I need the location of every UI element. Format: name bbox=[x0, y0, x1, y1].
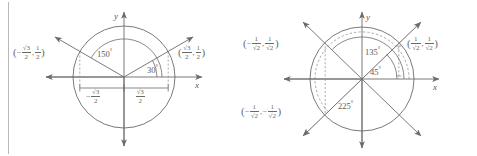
fraction-root3-over-2: √3 2 bbox=[136, 88, 145, 105]
fraction-numerator: 1 bbox=[425, 35, 434, 44]
right-panel-point-label-135: (− 1 √2 , 1 √2 ) bbox=[243, 35, 279, 52]
fraction-root3-over-2: √3 2 bbox=[91, 88, 100, 105]
right-panel-point-label-45: ( 1 √2 , 1 √2 ) bbox=[407, 35, 438, 52]
fraction-1-over-root2: 1 √2 bbox=[411, 35, 420, 52]
left-panel-x-axis-label: x bbox=[195, 80, 199, 90]
paren-open: ( bbox=[407, 37, 411, 49]
left-panel-angle-150-label: 150° bbox=[97, 48, 112, 59]
fraction-denominator: √2 bbox=[265, 44, 274, 52]
angle-225-value: 225 bbox=[338, 101, 351, 111]
fraction-1-over-root2: 1 √2 bbox=[252, 35, 261, 52]
fraction-denominator: √2 bbox=[425, 44, 434, 52]
angle-30-value: 30 bbox=[147, 65, 156, 75]
fraction-numerator: 1 bbox=[268, 103, 277, 112]
sign-negative-x: − bbox=[245, 107, 250, 116]
left-panel-measure-neg-root3-over-2: − √3 2 bbox=[86, 88, 101, 105]
angle-150-degree-symbol: ° bbox=[110, 48, 112, 54]
fraction-denominator: √2 bbox=[268, 112, 277, 120]
left-panel-y-axis-label: y bbox=[114, 11, 118, 21]
paren-close: ) bbox=[202, 46, 206, 58]
sign-negative-y: − bbox=[263, 107, 268, 116]
paren-open: ( bbox=[178, 46, 182, 58]
fraction-numerator: 1 bbox=[35, 44, 41, 53]
sign-negative-x: − bbox=[247, 39, 252, 48]
fraction-denominator: 2 bbox=[91, 97, 100, 105]
right-panel-point-label-225: (− 1 √2 ,− 1 √2 ) bbox=[241, 103, 281, 120]
angle-135-value: 135 bbox=[365, 47, 378, 57]
fraction-numerator: 1 bbox=[265, 35, 274, 44]
paren-close: ) bbox=[434, 37, 438, 49]
fraction-denominator: 2 bbox=[182, 53, 191, 61]
fraction-1-over-root2: 1 √2 bbox=[425, 35, 434, 52]
ray-135-degrees bbox=[303, 22, 362, 79]
fraction-numerator: 1 bbox=[250, 103, 259, 112]
right-panel-angle-135-label: 135° bbox=[365, 46, 380, 57]
right-panel: y x 135° 45° 225° (− 1 √2 , 1 √2 ) ( bbox=[239, 0, 477, 156]
sign-negative-x: − bbox=[17, 48, 22, 57]
fraction-numerator: √3 bbox=[91, 88, 100, 97]
sign-negative: − bbox=[86, 92, 91, 101]
right-panel-angle-225-label: 225° bbox=[338, 100, 353, 111]
angle-135-degree-symbol: ° bbox=[378, 46, 380, 52]
angle-45-degree-symbol: ° bbox=[379, 66, 381, 72]
right-panel-y-axis-label: y bbox=[366, 12, 370, 22]
left-panel-point-label-150: (− √3 2 , 1 2 ) bbox=[13, 44, 45, 61]
fraction-denominator: 2 bbox=[196, 53, 202, 61]
fraction-numerator: √3 bbox=[22, 44, 31, 53]
fraction-numerator: √3 bbox=[182, 44, 191, 53]
angle-45-value: 45 bbox=[370, 67, 379, 77]
fraction-denominator: √2 bbox=[411, 44, 420, 52]
fraction-1-over-root2: 1 √2 bbox=[265, 35, 274, 52]
fraction-denominator: 2 bbox=[22, 53, 31, 61]
angle-225-degree-symbol: ° bbox=[351, 100, 353, 106]
left-panel-diagram bbox=[0, 0, 239, 156]
fraction-1-over-2: 1 2 bbox=[35, 44, 41, 61]
paren-close: ) bbox=[41, 46, 45, 58]
fraction-numerator: 1 bbox=[252, 35, 261, 44]
fraction-1-over-root2: 1 √2 bbox=[250, 103, 259, 120]
arc-45-degrees bbox=[387, 54, 397, 79]
fraction-root3-over-2: √3 2 bbox=[182, 44, 191, 61]
fraction-1-over-2: 1 2 bbox=[196, 44, 202, 61]
fraction-numerator: 1 bbox=[196, 44, 202, 53]
fraction-numerator: √3 bbox=[136, 88, 145, 97]
fraction-numerator: 1 bbox=[411, 35, 420, 44]
fraction-denominator: √2 bbox=[252, 44, 261, 52]
left-panel-point-label-30: ( √3 2 , 1 2 ) bbox=[178, 44, 205, 61]
angle-30-degree-symbol: ° bbox=[156, 64, 158, 70]
right-panel-angle-45-label: 45° bbox=[370, 66, 381, 77]
paren-close: ) bbox=[277, 105, 281, 117]
paren-close: ) bbox=[275, 37, 279, 49]
angle-150-value: 150 bbox=[97, 49, 110, 59]
left-panel: y x 150° 30° (− √3 2 , 1 2 ) ( √3 2 , bbox=[0, 0, 239, 156]
right-panel-diagram bbox=[239, 0, 477, 156]
figure-root: y x 150° 30° (− √3 2 , 1 2 ) ( √3 2 , bbox=[0, 0, 477, 156]
left-panel-measure-root3-over-2: √3 2 bbox=[135, 88, 145, 105]
left-panel-angle-30-label: 30° bbox=[147, 64, 158, 75]
fraction-1-over-root2: 1 √2 bbox=[268, 103, 277, 120]
ray-315-degrees bbox=[362, 79, 421, 136]
fraction-denominator: 2 bbox=[35, 53, 41, 61]
ray-150-degrees bbox=[55, 37, 124, 77]
fraction-denominator: √2 bbox=[250, 112, 259, 120]
fraction-denominator: 2 bbox=[136, 97, 145, 105]
right-panel-x-axis-label: x bbox=[433, 82, 437, 92]
fraction-root3-over-2: √3 2 bbox=[22, 44, 31, 61]
